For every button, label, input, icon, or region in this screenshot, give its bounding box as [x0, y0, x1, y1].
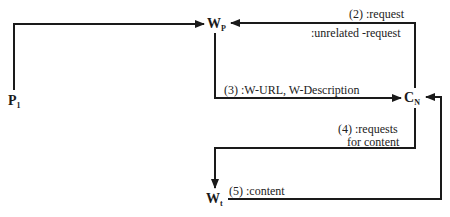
node-p1-sub: 1: [17, 101, 21, 110]
node-wt-main: W: [206, 191, 220, 206]
edge-2-label-line1: (2) :request: [349, 8, 404, 20]
node-p1: P1: [8, 94, 21, 110]
node-wp: WP: [207, 17, 226, 33]
node-wp-sub: P: [221, 24, 226, 33]
edge-2-label-line2: :unrelated -request: [311, 27, 401, 39]
node-p1-main: P: [8, 93, 17, 108]
edge-p1-to-wp: [14, 24, 204, 90]
node-wt: Wt: [206, 192, 223, 208]
edge-4-label-line2: for content: [347, 136, 399, 148]
edge-3-label: (3) :W-URL, W-Description: [224, 84, 359, 96]
edge-4-label-line1: (4) :requests: [338, 123, 398, 135]
node-cn: CN: [404, 91, 420, 107]
node-cn-main: C: [404, 90, 414, 105]
node-wp-main: W: [207, 16, 221, 31]
edge-5-label: (5) :content: [229, 185, 285, 197]
node-cn-sub: N: [414, 98, 420, 107]
node-wt-sub: t: [220, 199, 223, 208]
